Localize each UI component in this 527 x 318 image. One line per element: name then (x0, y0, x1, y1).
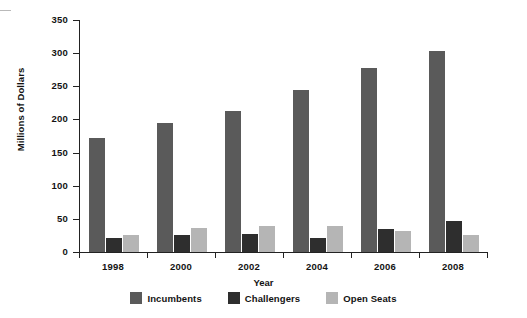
x-tick-label-2006: 2006 (357, 261, 413, 272)
legend-item-incumbents[interactable]: Incumbents (130, 292, 201, 304)
bars-layer (80, 20, 488, 252)
y-tick-label-text: 350 (38, 15, 68, 25)
y-tick-350 (73, 20, 79, 21)
x-tick-6 (487, 253, 488, 258)
y-tick-label-text: 300 (38, 48, 68, 58)
y-tick-label-150: 150 (38, 148, 68, 158)
y-tick-label-text: 250 (38, 81, 68, 91)
y-tick-label-text: 50 (38, 214, 68, 224)
x-tick-label-1998: 1998 (85, 261, 141, 272)
y-axis-title: Millions of Dollars (15, 50, 26, 170)
bar-challengers-2002 (242, 234, 258, 252)
y-tick-100 (73, 186, 79, 187)
x-tick-4 (351, 253, 352, 258)
y-tick-label-350: 350 (38, 15, 68, 25)
bar-challengers-2006 (378, 229, 394, 252)
legend-label: Open Seats (343, 293, 396, 304)
y-tick-label-text: 100 (38, 181, 68, 191)
y-tick-label-200: 200 (38, 114, 68, 124)
legend-item-challengers[interactable]: Challengers (228, 292, 300, 304)
bar-challengers-2008 (446, 221, 462, 252)
bar-open-seats-2002 (259, 226, 275, 252)
x-axis-title: Year (0, 277, 527, 288)
y-tick-150 (73, 153, 79, 154)
legend-swatch-icon (326, 292, 338, 304)
y-tick-label-300: 300 (38, 48, 68, 58)
bar-incumbents-2004 (293, 90, 309, 252)
bar-incumbents-2002 (225, 111, 241, 252)
bar-incumbents-2000 (157, 123, 173, 252)
legend-item-open-seats[interactable]: Open Seats (326, 292, 396, 304)
y-tick-label-100: 100 (38, 181, 68, 191)
y-tick-label-0: 0 (38, 247, 68, 257)
x-tick-label-2002: 2002 (221, 261, 277, 272)
y-tick-50 (73, 219, 79, 220)
x-tick-label-2004: 2004 (289, 261, 345, 272)
y-tick-250 (73, 86, 79, 87)
bar-challengers-2000 (174, 235, 190, 252)
y-tick-label-text: 150 (38, 148, 68, 158)
bar-open-seats-1998 (123, 235, 139, 252)
y-tick-label-text: 200 (38, 114, 68, 124)
y-tick-300 (73, 53, 79, 54)
x-tick-label-2008: 2008 (425, 261, 481, 272)
bar-open-seats-2006 (395, 231, 411, 252)
x-tick-0 (79, 253, 80, 258)
bar-challengers-1998 (106, 238, 122, 252)
x-tick-5 (419, 253, 420, 258)
y-tick-label-250: 250 (38, 81, 68, 91)
bar-chart-figure: 050100150200250300350 Millions of Dollar… (0, 0, 527, 318)
y-tick-label-50: 50 (38, 214, 68, 224)
bar-challengers-2004 (310, 238, 326, 252)
legend-swatch-icon (228, 292, 240, 304)
bar-incumbents-1998 (89, 138, 105, 252)
x-tick-2 (215, 253, 216, 258)
bar-open-seats-2008 (463, 235, 479, 252)
bar-incumbents-2008 (429, 51, 445, 252)
x-tick-1 (147, 253, 148, 258)
legend-label: Incumbents (147, 293, 201, 304)
y-tick-label-text: 0 (38, 247, 68, 257)
bar-open-seats-2004 (327, 226, 343, 253)
chart-legend: IncumbentsChallengersOpen Seats (0, 292, 527, 304)
bar-incumbents-2006 (361, 68, 377, 252)
bar-open-seats-2000 (191, 228, 207, 252)
legend-swatch-icon (130, 292, 142, 304)
x-tick-3 (283, 253, 284, 258)
y-tick-200 (73, 119, 79, 120)
legend-label: Challengers (245, 293, 300, 304)
x-tick-label-2000: 2000 (153, 261, 209, 272)
